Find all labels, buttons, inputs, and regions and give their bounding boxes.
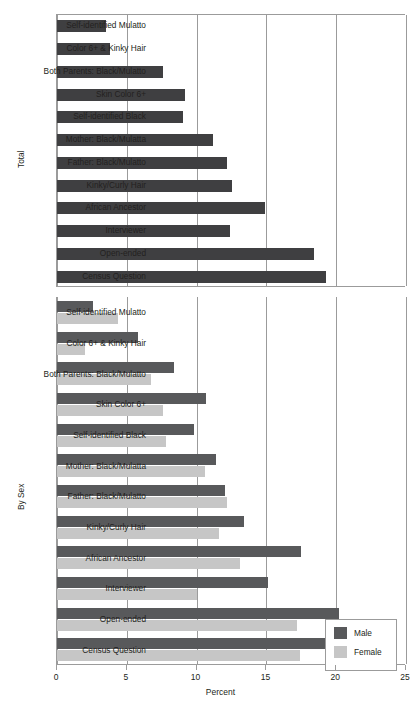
x-tick-label-0: 0 (54, 672, 59, 682)
bar-female-5 (57, 466, 205, 477)
bar-female-9 (57, 589, 197, 600)
bar-female-8 (57, 558, 240, 569)
x-tick-5 (126, 665, 127, 670)
bar-female-0 (57, 313, 118, 324)
bar-male-3 (57, 393, 206, 404)
x-axis-title: Percent (0, 687, 417, 697)
bar-total-3 (57, 89, 185, 101)
x-tick-label-25: 25 (400, 672, 409, 682)
x-tick-20 (335, 665, 336, 670)
panel-total-y-axis-title: Total (16, 150, 26, 168)
panel-by-sex: By Sex Self-identified MulattoColor 6+ &… (0, 292, 417, 715)
legend-label-male: Male (354, 628, 372, 638)
bar-male-9 (57, 577, 268, 588)
bar-male-7 (57, 516, 244, 527)
x-tick-0 (56, 665, 57, 670)
legend-label-female: Female (354, 647, 382, 657)
x-tick-label-10: 10 (191, 672, 200, 682)
bar-total-4 (57, 111, 183, 123)
panel-total: Total Self-identified MulattoColor 6+ & … (0, 0, 417, 292)
x-axis: 0510152025 Percent (0, 665, 417, 715)
x-axis-title-text: Percent (206, 687, 235, 697)
bar-male-11 (57, 638, 356, 649)
bar-female-2 (57, 374, 151, 385)
panel-by-sex-y-axis-title: By Sex (16, 484, 26, 510)
bar-total-1 (57, 43, 110, 55)
bar-total-10 (57, 248, 314, 260)
bar-male-2 (57, 362, 174, 373)
x-tick-label-5: 5 (123, 672, 128, 682)
bar-female-1 (57, 344, 85, 355)
bar-total-5 (57, 134, 213, 146)
bar-male-4 (57, 424, 194, 435)
gridline-25 (406, 15, 407, 286)
bar-total-11 (57, 271, 326, 283)
panel-by-sex-plot-area (56, 297, 405, 665)
bar-male-10 (57, 608, 339, 619)
x-tick-10 (196, 665, 197, 670)
bar-male-0 (57, 301, 93, 312)
bar-total-7 (57, 180, 232, 192)
panel-total-plot-area (56, 14, 405, 287)
bar-total-9 (57, 225, 230, 237)
bar-total-6 (57, 157, 227, 169)
bar-male-6 (57, 485, 225, 496)
legend-swatch-male-icon (334, 627, 347, 639)
legend-item-male: Male (334, 627, 396, 639)
bar-female-4 (57, 436, 166, 447)
grouped-bar-chart-figure: Total Self-identified MulattoColor 6+ & … (0, 0, 417, 715)
panel-by-sex-bars (57, 297, 405, 664)
bar-male-5 (57, 454, 216, 465)
panel-total-bars (57, 15, 405, 286)
x-tick-label-15: 15 (261, 672, 270, 682)
bar-female-6 (57, 497, 227, 508)
x-tick-label-20: 20 (330, 672, 339, 682)
x-tick-25 (405, 665, 406, 670)
bar-female-10 (57, 620, 297, 631)
gridline-25 (406, 297, 407, 664)
bar-total-8 (57, 202, 265, 214)
legend-swatch-female-icon (334, 646, 347, 658)
bar-female-11 (57, 650, 300, 661)
bar-female-3 (57, 405, 163, 416)
bar-male-1 (57, 332, 138, 343)
bar-total-0 (57, 20, 106, 32)
bar-total-2 (57, 66, 163, 78)
bar-male-8 (57, 546, 301, 557)
legend-item-female: Female (334, 646, 396, 658)
x-tick-15 (265, 665, 266, 670)
legend: Male Female (325, 619, 397, 671)
bar-female-7 (57, 528, 219, 539)
